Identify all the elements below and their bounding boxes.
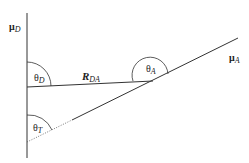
mu-d-label: μD <box>9 21 21 34</box>
r-da-label: RDA <box>81 70 100 84</box>
mu-a-label: μA <box>229 52 240 65</box>
theta-a-label: θA <box>146 63 156 76</box>
theta-d-label: θD <box>34 72 45 85</box>
diagram-canvas: μD μA RDA θD θA θT <box>0 0 249 163</box>
theta-t-label: θT <box>33 122 43 135</box>
